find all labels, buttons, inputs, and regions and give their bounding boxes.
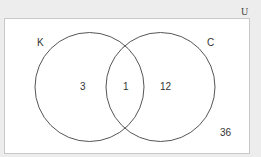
- outside-count: 36: [220, 127, 232, 138]
- universe-label: U: [241, 6, 249, 17]
- set-c-label: C: [207, 37, 214, 48]
- set-k-label: K: [37, 37, 44, 48]
- c-only-count: 12: [160, 81, 172, 92]
- k-only-count: 3: [80, 81, 86, 92]
- intersection-count: 1: [123, 81, 129, 92]
- venn-diagram: U K C 3 1 12 36: [0, 0, 261, 157]
